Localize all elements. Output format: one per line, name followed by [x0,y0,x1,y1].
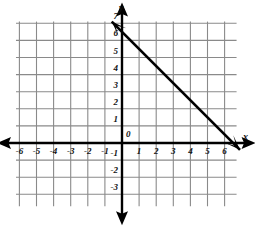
y-tick-label: 2 [100,98,118,107]
graph-canvas [0,0,255,226]
x-tick-label: 6 [215,147,235,156]
y-tick-label: -2 [100,166,118,175]
y-tick-label: -3 [100,183,118,192]
y-tick-label: 5 [100,47,118,56]
y-tick-label: -1 [100,149,118,158]
origin-label: 0 [126,130,131,139]
y-tick-label: 1 [100,115,118,124]
y-tick-label: 7 [100,12,118,21]
y-tick-label: 4 [100,64,118,73]
grid-horizontal-lines [16,23,237,194]
y-tick-label: 3 [100,81,118,90]
coordinate-plane-graph: 0 x y -6-5-4-3-2-1123456 1234567-1-2-3 [0,0,255,226]
y-tick-label: 6 [100,29,118,38]
y-axis-label: y [119,3,123,13]
x-axis-label: x [243,132,248,142]
